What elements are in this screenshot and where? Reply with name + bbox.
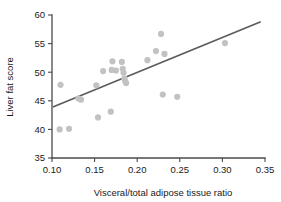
scatter-plot: 354045505560 0.100.150.200.250.300.35 Vi… [0, 0, 281, 202]
data-point [109, 58, 115, 64]
data-point [66, 126, 72, 132]
y-tick-label: 55 [34, 38, 45, 49]
x-tick-label: 0.30 [213, 164, 232, 175]
data-point [174, 94, 180, 100]
chart-figure: 354045505560 0.100.150.200.250.300.35 Vi… [0, 0, 281, 202]
y-axis-title: Liver fat score [4, 57, 15, 117]
data-point [95, 114, 101, 120]
x-axis-title: Visceral/total adipose tissue ratio [94, 187, 233, 198]
data-point [78, 97, 84, 103]
x-tick-label: 0.20 [128, 164, 147, 175]
data-point [119, 59, 125, 65]
data-point [222, 40, 228, 46]
x-tick-label: 0.15 [85, 164, 104, 175]
y-tick-label: 50 [34, 67, 45, 78]
data-point [113, 67, 119, 73]
regression-line [53, 22, 261, 107]
x-tick-label: 0.10 [43, 164, 62, 175]
plot-data-area [53, 22, 261, 133]
data-point [120, 70, 126, 76]
y-tick-label: 40 [34, 124, 45, 135]
data-point [108, 109, 114, 115]
y-tick-label: 60 [34, 9, 45, 20]
data-point [158, 31, 164, 37]
data-point [161, 51, 167, 57]
x-axis-tick-labels: 0.100.150.200.250.300.35 [43, 164, 275, 175]
data-point [57, 82, 63, 88]
x-tick-label: 0.25 [171, 164, 190, 175]
y-tick-label: 35 [34, 152, 45, 163]
data-point [123, 80, 129, 86]
x-tick-label: 0.35 [256, 164, 275, 175]
data-point [93, 82, 99, 88]
data-point [144, 57, 150, 63]
plot-axes [48, 15, 265, 162]
data-point [153, 48, 159, 54]
y-tick-label: 45 [34, 95, 45, 106]
data-point [100, 68, 106, 74]
data-point [160, 91, 166, 97]
y-axis-tick-labels: 354045505560 [34, 9, 45, 163]
data-point [57, 126, 63, 132]
